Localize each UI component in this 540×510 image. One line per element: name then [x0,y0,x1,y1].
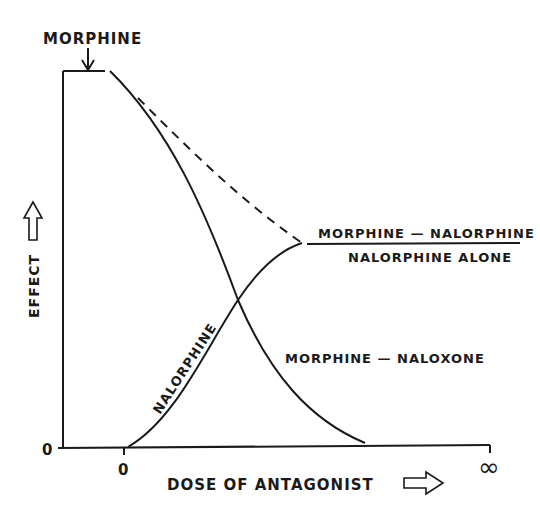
chart: MORPHINE MORPHINE — NALORPHINE NALORPHIN… [0,0,540,510]
label-nalorphine-alone: NALORPHINE ALONE [348,250,512,265]
curve-morphine-nalorphine [138,98,302,243]
label-nalorphine: NALORPHINE [150,321,220,417]
x-axis-label: DOSE OF ANTAGONIST [167,476,374,494]
label-morphine: MORPHINE [43,30,142,48]
y-tick-zero: 0 [42,441,53,459]
x-tick-label-zero: 0 [118,461,129,479]
label-morphine-naloxone: MORPHINE — NALOXONE [285,351,485,366]
y-axis-label: EFFECT [26,254,42,318]
dose-right-arrow-icon [404,472,443,494]
x-tick-label-infinity: ∞ [478,452,501,482]
effect-up-arrow-icon [24,202,42,240]
nalorphine-plateau [307,243,520,244]
label-morphine-nalorphine: MORPHINE — NALORPHINE [318,226,535,241]
morphine-arrow-icon [82,48,94,70]
curve-nalorphine [128,243,302,447]
curve-morphine-naloxone [110,71,365,443]
x-axis [58,445,490,448]
